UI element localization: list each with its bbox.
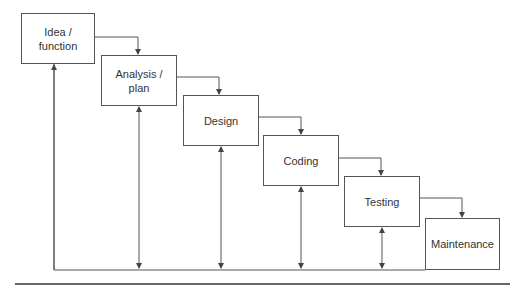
stage-idea-line2: function — [39, 39, 78, 53]
stage-idea-line1: Idea / — [39, 25, 78, 39]
stage-idea: Idea /function — [21, 13, 95, 64]
stage-design-label: Design — [204, 114, 238, 128]
flow-arrow-coding-testing — [338, 158, 381, 175]
flow-arrow-testing-maintenance — [419, 198, 462, 217]
stage-analysis: Analysis /plan — [101, 55, 177, 106]
flow-arrow-analysis-design — [176, 77, 219, 94]
flow-arrow-design-coding — [258, 117, 301, 134]
stage-testing-label: Testing — [365, 195, 400, 209]
stage-testing: Testing — [344, 176, 420, 227]
stage-maintenance-label: Maintenance — [431, 237, 494, 251]
stage-coding-label: Coding — [284, 154, 319, 168]
stage-maintenance: Maintenance — [425, 218, 500, 270]
stage-analysis-line1: Analysis / — [115, 67, 162, 81]
flow-arrow-idea-analysis — [94, 37, 138, 54]
stage-design: Design — [183, 95, 259, 146]
stage-analysis-line2: plan — [115, 81, 162, 95]
stage-coding: Coding — [263, 135, 339, 186]
